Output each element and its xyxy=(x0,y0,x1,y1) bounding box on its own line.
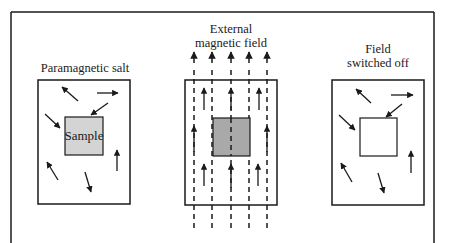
spin-arrow xyxy=(339,115,355,130)
spin-arrow xyxy=(341,163,352,182)
spin-arrow xyxy=(45,114,60,128)
spin-arrow xyxy=(356,89,371,103)
panel-external-field: External magnetic field xyxy=(185,22,277,230)
sample-box xyxy=(360,118,397,156)
spin-arrow xyxy=(378,173,384,193)
spin-arrow xyxy=(85,172,91,192)
spin-arrow xyxy=(47,162,58,180)
paramagnetic-diagram: Paramagnetic salt Sample External magnet… xyxy=(0,0,449,243)
panel-title: Paramagnetic salt xyxy=(41,61,130,75)
panel-paramagnetic-salt: Paramagnetic salt Sample xyxy=(38,61,130,204)
sample-label: Sample xyxy=(65,128,104,143)
panel-title-line-2: switched off xyxy=(347,56,410,70)
panel-title-line-2: magnetic field xyxy=(195,36,268,50)
spin-arrow xyxy=(91,103,108,115)
panel-field-off: Field switched off xyxy=(332,42,424,205)
spin-arrow xyxy=(62,87,78,101)
field-direction-arrows xyxy=(194,52,267,63)
spin-arrow xyxy=(386,104,402,117)
panel-title-line-1: External xyxy=(210,22,253,36)
panel-title-line-1: Field xyxy=(365,42,391,56)
